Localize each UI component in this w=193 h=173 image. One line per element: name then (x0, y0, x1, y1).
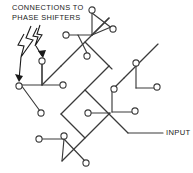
port-node[interactable] (110, 26, 116, 32)
level3-diag-b (92, 13, 113, 29)
input-label: INPUT (166, 128, 191, 138)
port-node[interactable] (16, 83, 22, 89)
port-node[interactable] (132, 108, 138, 114)
port-node[interactable] (63, 32, 69, 38)
phase-shifters-annotation: CONNECTIONS TO PHASE SHIFTERS (12, 3, 84, 22)
port-node[interactable] (89, 7, 95, 13)
port-node[interactable] (154, 84, 160, 90)
port-node[interactable] (60, 82, 66, 88)
leader-arrows (18, 25, 42, 80)
port-node[interactable] (111, 86, 117, 92)
port-node[interactable] (85, 110, 91, 116)
port-node[interactable] (38, 110, 44, 116)
level3-mid-b (78, 35, 87, 53)
leader-arrow-right (33, 25, 42, 46)
port-node[interactable] (84, 53, 90, 59)
arrowhead-left-icon (15, 74, 23, 82)
feed-network-svg (0, 0, 193, 173)
leader-arrowheads (15, 50, 46, 82)
level3-drop-b (92, 27, 111, 35)
leader-arrow-left (18, 26, 33, 57)
diagram-figure: CONNECTIONS TO PHASE SHIFTERS INPUT (0, 0, 193, 173)
level2-cross-ll (62, 113, 110, 161)
level2-ul-branch-b (92, 18, 109, 35)
arrowhead-right-icon (38, 50, 46, 58)
level2-ul-branch-a (42, 66, 61, 85)
level3-drop-a (21, 85, 40, 111)
port-node[interactable] (133, 60, 139, 66)
port-node[interactable] (39, 58, 45, 64)
right-connector (109, 66, 112, 69)
port-node[interactable] (36, 136, 42, 142)
level2-cross-r (112, 44, 158, 90)
port-node[interactable] (61, 133, 67, 139)
port-node[interactable] (83, 160, 89, 166)
level2-ll-branch-a (62, 139, 64, 161)
